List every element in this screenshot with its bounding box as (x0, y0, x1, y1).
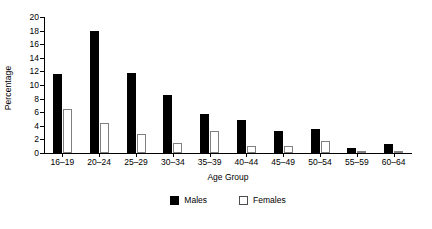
y-tick-label: 6 (34, 108, 39, 117)
y-tick-label: 14 (30, 54, 39, 63)
x-tick-label: 35–39 (198, 158, 222, 167)
y-axis-line (44, 17, 45, 153)
y-tick-label: 16 (30, 40, 39, 49)
bar-male (163, 95, 172, 153)
y-tick (40, 58, 44, 59)
legend-label: Males (184, 196, 207, 205)
bar-male (347, 148, 356, 153)
y-tick (40, 99, 44, 100)
bar-male (274, 131, 283, 153)
bar-female (137, 134, 146, 153)
bar-female (210, 131, 219, 153)
x-tick-label: 50–54 (308, 158, 332, 167)
y-tick-label: 8 (34, 94, 39, 103)
bar-male (53, 74, 62, 153)
y-tick (40, 153, 44, 154)
y-tick (40, 44, 44, 45)
bar-male (237, 120, 246, 153)
y-tick-label: 10 (30, 81, 39, 90)
legend-label: Females (253, 196, 286, 205)
y-tick (40, 71, 44, 72)
y-tick-label: 0 (34, 149, 39, 158)
bar-female (321, 141, 330, 153)
bar-female (63, 109, 72, 153)
bar-male (200, 114, 209, 153)
y-tick (40, 126, 44, 127)
y-tick (40, 112, 44, 113)
y-tick-label: 4 (34, 122, 39, 131)
y-tick (40, 139, 44, 140)
y-tick (40, 85, 44, 86)
bar-female (173, 143, 182, 153)
x-tick-label: 55–59 (345, 158, 369, 167)
x-tick-label: 40–44 (235, 158, 259, 167)
legend-item: Females (239, 196, 286, 205)
bar-male (311, 129, 320, 153)
y-tick-label: 12 (30, 67, 39, 76)
legend-item: Males (170, 196, 207, 205)
legend-swatch-females (239, 196, 248, 205)
y-tick (40, 31, 44, 32)
bar-female (247, 146, 256, 153)
x-axis-title: Age Group (44, 172, 412, 182)
bar-female (394, 151, 403, 153)
x-tick-label: 30–34 (161, 158, 185, 167)
legend: MalesFemales (44, 196, 412, 205)
x-tick-label: 45–49 (271, 158, 295, 167)
bar-male (127, 73, 136, 153)
bar-female (100, 123, 109, 153)
x-tick-label: 60–64 (382, 158, 406, 167)
y-tick-label: 20 (30, 13, 39, 22)
legend-swatch-males (170, 196, 179, 205)
bar-chart: Percentage 02468101214161820 16–1920–242… (0, 0, 432, 229)
y-tick-label: 2 (34, 135, 39, 144)
y-axis-title: Percentage (0, 40, 16, 136)
bar-female (357, 151, 366, 153)
x-tick-label: 16–19 (51, 158, 75, 167)
y-tick (40, 17, 44, 18)
bar-female (284, 146, 293, 153)
x-tick-label: 20–24 (87, 158, 111, 167)
plot-area: 02468101214161820 16–1920–2425–2930–3435… (44, 17, 412, 153)
bar-male (384, 144, 393, 153)
bar-male (90, 31, 99, 153)
y-axis-title-label: Percentage (3, 66, 13, 110)
x-tick-label: 25–29 (124, 158, 148, 167)
y-tick-label: 18 (30, 26, 39, 35)
